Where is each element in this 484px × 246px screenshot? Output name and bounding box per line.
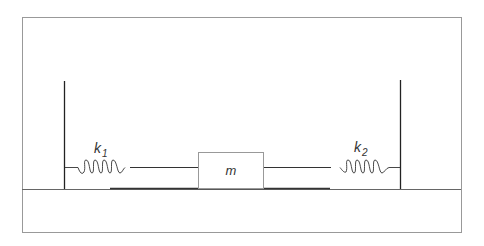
- spring-right-label: k2: [354, 139, 368, 158]
- left-spring: [65, 160, 198, 173]
- spring-mass-diagram: m k1 k2: [0, 0, 484, 246]
- mass-label: m: [226, 163, 237, 178]
- right-spring: [264, 160, 400, 173]
- outer-frame: [23, 18, 462, 233]
- spring-left-label: k1: [94, 140, 108, 159]
